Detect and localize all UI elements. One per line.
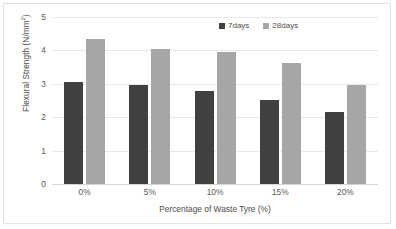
bar-7days-10%[interactable] (195, 91, 214, 184)
plot-area: 012345 (52, 17, 378, 184)
bar-group (117, 17, 182, 184)
x-axis-tick-label: 5% (117, 187, 182, 197)
bar-7days-0%[interactable] (64, 82, 83, 184)
y-axis-title-text: Flexural Strength (N/mm (22, 20, 31, 111)
x-axis-tick-label: 10% (182, 187, 247, 197)
y-axis-tick-label: 4 (41, 45, 46, 55)
gridline: 0 (52, 184, 378, 185)
bar-group (313, 17, 378, 184)
bar-28days-15%[interactable] (282, 63, 301, 184)
bar-groups (52, 17, 378, 184)
chart-container: Flexural Strength (N/mm2) 012345 0%5%10%… (3, 3, 391, 224)
x-axis-tick-labels: 0%5%10%15%20% (52, 187, 378, 197)
bar-28days-5%[interactable] (151, 49, 170, 184)
bar-28days-20%[interactable] (347, 85, 366, 184)
bar-group (182, 17, 247, 184)
y-axis-title-superscript: 2 (20, 17, 26, 20)
y-axis-title: Flexural Strength (N/mm2) (20, 0, 34, 133)
y-axis-title-tail: ) (22, 14, 31, 17)
x-axis-tick-label: 20% (313, 187, 378, 197)
bar-7days-5%[interactable] (129, 85, 148, 184)
y-axis-tick-label: 5 (41, 12, 46, 22)
bar-28days-10%[interactable] (217, 52, 236, 184)
bar-7days-15%[interactable] (260, 100, 279, 185)
legend-item[interactable]: 28days (263, 21, 298, 30)
y-axis-tick-label: 1 (41, 146, 46, 156)
y-axis-tick-label: 3 (41, 79, 46, 89)
chart-legend: 7days28days (219, 21, 298, 30)
bar-7days-20%[interactable] (325, 112, 344, 184)
bar-28days-0%[interactable] (86, 39, 105, 184)
legend-label: 7days (228, 21, 249, 30)
x-axis-tick-label: 0% (52, 187, 117, 197)
y-axis-tick-label: 2 (41, 112, 46, 122)
legend-item[interactable]: 7days (219, 21, 249, 30)
square-marker-icon (263, 23, 269, 29)
legend-label: 28days (272, 21, 298, 30)
x-axis-title: Percentage of Waste Tyre (%) (52, 204, 378, 214)
bar-group (52, 17, 117, 184)
square-marker-icon (219, 23, 225, 29)
x-axis-tick-label: 15% (248, 187, 313, 197)
bar-group (248, 17, 313, 184)
y-axis-tick-label: 0 (41, 179, 46, 189)
